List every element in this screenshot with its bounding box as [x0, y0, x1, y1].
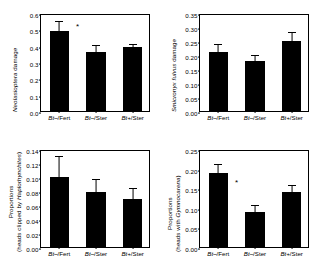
y-tick-mark — [198, 249, 200, 250]
bar — [50, 31, 69, 111]
y-axis-label: Proportions(heads with Gymnocarena) — [166, 175, 181, 252]
error-bar-cap — [251, 55, 259, 56]
x-tick-label: Bt–/Fert — [207, 250, 229, 257]
y-tick-mark — [198, 15, 200, 16]
error-bar-cap — [129, 188, 137, 189]
y-tick-mark — [39, 249, 41, 250]
x-tick-label: Bt–/Ster — [85, 250, 107, 257]
error-bar — [96, 45, 97, 54]
error-bar — [255, 55, 256, 63]
plot-inner: 0.000.020.040.060.080.100.120.14Bt–/Fert… — [41, 151, 149, 247]
y-tick-mark — [198, 190, 200, 191]
y-tick-mark — [39, 221, 41, 222]
error-bar-cap — [55, 156, 63, 157]
bar — [209, 52, 228, 111]
y-tick-mark — [198, 170, 200, 171]
y-tick-mark — [198, 99, 200, 100]
bar — [245, 61, 264, 111]
plot-area: 0.000.050.100.150.200.25Bt–/FertBt–/Ster… — [199, 150, 309, 248]
x-tick-label: Bt+/Ster — [121, 114, 144, 121]
bar — [123, 199, 142, 247]
bar — [282, 41, 301, 111]
bar — [50, 177, 69, 247]
error-bar — [218, 164, 219, 175]
y-axis-label-line1: Proportions — [7, 186, 14, 219]
error-bar — [96, 179, 97, 194]
error-bar-cap — [92, 179, 100, 180]
error-bar — [291, 185, 292, 194]
plot-inner: 0.00.10.20.30.40.50.6Bt–/FertBt–/SterBt+… — [41, 15, 149, 111]
y-tick-mark — [39, 64, 41, 65]
significance-asterisk: * — [235, 180, 238, 186]
y-tick-mark — [39, 207, 41, 208]
x-tick-label: Bt+/Ster — [280, 114, 303, 121]
y-axis-label-line2: (heads clipped by Haplorhynchites) — [15, 152, 23, 252]
error-bar-cap — [288, 185, 296, 186]
panel-proportions-gymnocarena: Proportions(heads with Gymnocarena)0.000… — [159, 136, 318, 272]
y-tick-mark — [198, 43, 200, 44]
y-tick-mark — [39, 151, 41, 152]
y-tick-mark — [198, 71, 200, 72]
y-axis-label: Proportions(heads clipped by Haplorhynch… — [7, 152, 22, 252]
plot-area: 0.000.020.040.060.080.100.120.14Bt–/Fert… — [40, 150, 150, 248]
y-tick-mark — [39, 96, 41, 97]
x-tick-label: Bt+/Ster — [280, 250, 303, 257]
panel-smicronyx-fulvus-damage: Smicronyx fulvus damage0.000.050.100.150… — [159, 0, 318, 136]
y-tick-mark — [39, 165, 41, 166]
y-tick-mark — [39, 47, 41, 48]
bar — [86, 192, 105, 247]
x-tick-label: Bt+/Ster — [121, 250, 144, 257]
y-tick-mark — [39, 80, 41, 81]
y-tick-mark — [198, 151, 200, 152]
error-bar-cap — [129, 44, 137, 45]
bar — [86, 52, 105, 111]
error-bar — [291, 32, 292, 43]
figure-panel-grid: Neolasioptera damage0.00.10.20.30.40.50.… — [0, 0, 318, 272]
y-axis-label-line2: (heads with Gymnocarena) — [174, 175, 182, 252]
y-tick-mark — [39, 193, 41, 194]
y-tick-mark — [198, 113, 200, 114]
error-bar — [132, 188, 133, 201]
y-tick-mark — [39, 31, 41, 32]
plot-area: 0.000.050.100.150.200.250.300.35Bt–/Fert… — [199, 14, 309, 112]
y-tick-mark — [198, 57, 200, 58]
y-tick-mark — [198, 209, 200, 210]
error-bar-cap — [251, 205, 259, 206]
x-tick-label: Bt–/Ster — [244, 250, 266, 257]
x-tick-label: Bt–/Ster — [85, 114, 107, 121]
error-bar — [218, 44, 219, 54]
significance-asterisk: * — [76, 24, 79, 30]
y-tick-mark — [198, 229, 200, 230]
panel-proportions-haplorhynchites: Proportions(heads clipped by Haplorhynch… — [0, 136, 159, 272]
y-axis-label: Smicronyx fulvus damage — [170, 39, 178, 112]
bar — [209, 173, 228, 247]
y-tick-mark — [39, 113, 41, 114]
y-axis-label-line1: Proportions — [166, 197, 173, 230]
y-axis-label: Neolasioptera damage — [11, 48, 19, 112]
error-bar — [59, 156, 60, 179]
y-tick-mark — [39, 235, 41, 236]
error-bar-cap — [214, 44, 222, 45]
error-bar-cap — [288, 32, 296, 33]
x-tick-label: Bt–/Fert — [48, 114, 70, 121]
x-tick-label: Bt–/Fert — [207, 114, 229, 121]
y-tick-mark — [198, 29, 200, 30]
panel-neolasioptera-damage: Neolasioptera damage0.00.10.20.30.40.50.… — [0, 0, 159, 136]
y-tick-mark — [39, 179, 41, 180]
bar — [245, 212, 264, 247]
bar — [282, 192, 301, 247]
y-tick-mark — [198, 85, 200, 86]
error-bar-cap — [214, 164, 222, 165]
bar — [123, 47, 142, 111]
y-tick-mark — [39, 15, 41, 16]
plot-inner: 0.000.050.100.150.200.25Bt–/FertBt–/Ster… — [200, 151, 308, 247]
plot-inner: 0.000.050.100.150.200.250.300.35Bt–/Fert… — [200, 15, 308, 111]
error-bar-cap — [92, 45, 100, 46]
error-bar — [59, 21, 60, 33]
x-tick-label: Bt–/Fert — [48, 250, 70, 257]
plot-area: 0.00.10.20.30.40.50.6Bt–/FertBt–/SterBt+… — [40, 14, 150, 112]
error-bar-cap — [55, 21, 63, 22]
error-bar — [255, 205, 256, 214]
x-tick-label: Bt–/Ster — [244, 114, 266, 121]
